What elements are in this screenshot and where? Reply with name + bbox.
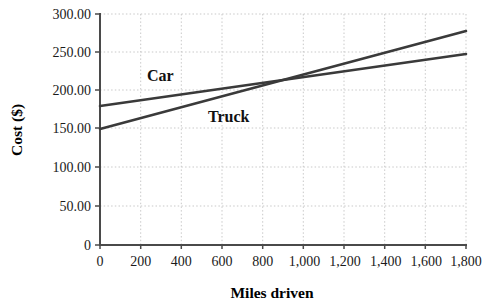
x-tick-label-1200: 1,200 — [329, 254, 361, 269]
x-tick-label-1600: 1,600 — [411, 254, 443, 269]
x-tick-label-1800: 1,800 — [450, 254, 482, 269]
y-axis-title: Cost ($) — [8, 104, 26, 156]
y-tick-label-100: 100.00 — [53, 160, 92, 175]
y-tick-label-200: 200.00 — [53, 83, 92, 98]
y-axis-tick-labels: 300.00 250.00 200.00 150.00 100.00 50.00… — [53, 7, 92, 253]
x-axis-title: Miles driven — [230, 284, 313, 301]
x-tick-label-0: 0 — [97, 254, 104, 269]
y-tick-label-150: 150.00 — [53, 121, 92, 136]
chart-container: 300.00 250.00 200.00 150.00 100.00 50.00… — [0, 0, 491, 308]
gridlines-horizontal — [100, 14, 466, 206]
x-tick-label-400: 400 — [171, 254, 192, 269]
series-label-truck: Truck — [208, 108, 250, 125]
y-tick-label-300: 300.00 — [53, 7, 92, 22]
line-chart: 300.00 250.00 200.00 150.00 100.00 50.00… — [0, 0, 491, 308]
x-axis-tick-labels: 0 200 400 600 800 1,000 1,200 1,400 1,60… — [97, 254, 482, 269]
x-tick-label-1400: 1,400 — [370, 254, 402, 269]
x-tick-label-200: 200 — [130, 254, 151, 269]
x-tick-label-800: 800 — [252, 254, 273, 269]
x-tick-label-1000: 1,000 — [289, 254, 321, 269]
y-tick-label-50: 50.00 — [60, 199, 92, 214]
y-tick-label-250: 250.00 — [53, 45, 92, 60]
gridlines-vertical — [141, 14, 466, 245]
series-label-car: Car — [147, 67, 174, 84]
x-tick-label-600: 600 — [212, 254, 233, 269]
y-tick-label-0: 0 — [84, 238, 91, 253]
